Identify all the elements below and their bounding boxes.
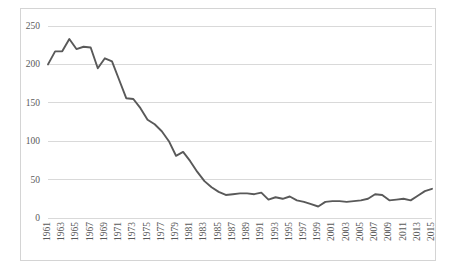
y-tick-label-50: 50 bbox=[14, 175, 40, 185]
y-tick-label-200: 200 bbox=[14, 59, 40, 69]
y-tick-label-250: 250 bbox=[14, 21, 40, 31]
x-tick-label-1989: 1989 bbox=[242, 222, 251, 241]
x-tick-label-1991: 1991 bbox=[256, 222, 265, 241]
x-tick-label-1977: 1977 bbox=[157, 222, 166, 241]
x-tick-label-2015: 2015 bbox=[427, 222, 436, 241]
x-tick-label-2013: 2013 bbox=[413, 222, 422, 241]
x-tick-label-1997: 1997 bbox=[299, 222, 308, 241]
x-tick-label-1987: 1987 bbox=[228, 222, 237, 241]
x-tick-label-1969: 1969 bbox=[100, 222, 109, 241]
x-tick-label-2011: 2011 bbox=[399, 222, 408, 241]
y-tick-label-0: 0 bbox=[14, 213, 40, 223]
y-tick-label-150: 150 bbox=[14, 98, 40, 108]
x-tick-label-1981: 1981 bbox=[185, 222, 194, 241]
x-tick-label-1985: 1985 bbox=[214, 222, 223, 241]
x-tick-label-2009: 2009 bbox=[384, 222, 393, 241]
x-tick-label-2003: 2003 bbox=[342, 222, 351, 241]
x-tick-label-2001: 2001 bbox=[327, 222, 336, 241]
x-tick-label-1967: 1967 bbox=[86, 222, 95, 241]
x-tick-label-2005: 2005 bbox=[356, 222, 365, 241]
x-tick-label-1965: 1965 bbox=[71, 222, 80, 241]
x-tick-label-1963: 1963 bbox=[57, 222, 66, 241]
x-tick-label-1973: 1973 bbox=[128, 222, 137, 241]
gridlines-group bbox=[48, 26, 432, 218]
x-tick-label-1975: 1975 bbox=[143, 222, 152, 241]
x-tick-label-1995: 1995 bbox=[285, 222, 294, 241]
x-tick-label-1983: 1983 bbox=[199, 222, 208, 241]
x-tick-label-1993: 1993 bbox=[271, 222, 280, 241]
chart-figure: 250200150100500 196119631965196719691971… bbox=[0, 0, 455, 270]
x-tick-label-1999: 1999 bbox=[313, 222, 322, 241]
x-tick-label-2007: 2007 bbox=[370, 222, 379, 241]
y-tick-label-100: 100 bbox=[14, 136, 40, 146]
x-tick-label-1979: 1979 bbox=[171, 222, 180, 241]
x-tick-label-1961: 1961 bbox=[43, 222, 52, 241]
x-tick-label-1971: 1971 bbox=[114, 222, 123, 241]
